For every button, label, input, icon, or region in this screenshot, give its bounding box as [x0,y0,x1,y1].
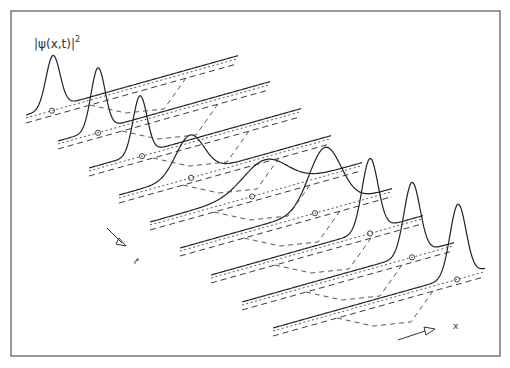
time-slice-0 [26,55,238,123]
time-slice-4 [150,159,362,230]
center-line [242,246,454,305]
time-slices [26,55,485,336]
probability-density-curve [150,159,362,222]
probability-density-curve [26,55,238,115]
figure-frame [11,11,500,356]
expectation-marker-icon [249,194,254,199]
probability-density-curve [273,204,485,328]
center-line [58,85,270,144]
probability-density-curve [58,68,270,141]
probability-density-curve [119,135,331,195]
barrier-outline [244,211,340,246]
probability-density-curve [242,182,454,302]
center-line [26,59,238,118]
expectation-marker-icon [188,175,193,180]
center-line [211,219,423,278]
wave-packet-diagram: |ψ(x,t)|2 t x [0,0,510,368]
dashed-baseline [180,197,392,256]
center-line [89,112,301,171]
dashed-baseline [211,224,423,283]
dashed-baseline [89,117,301,176]
expectation-marker-icon [49,108,54,113]
time-axis: t [107,228,141,266]
dashed-baseline [26,64,238,123]
center-line [150,166,362,225]
time-slice-3 [119,135,331,203]
psi-label: |ψ(x,t)|2 [34,35,80,51]
time-axis-label: t [132,256,142,266]
barrier-outline [214,185,310,220]
dashed-baseline [119,144,331,203]
expectation-marker-icon [454,277,459,282]
x-axis-label: x [453,321,459,331]
center-line [119,139,331,198]
time-slice-7 [242,182,454,310]
dashed-baseline [150,171,362,230]
x-arrow-head-icon [424,327,435,335]
time-slice-8 [273,204,485,336]
x-arrow-shaft [398,331,425,340]
x-axis: x [398,321,459,340]
dashed-baseline [242,251,454,310]
expectation-marker-icon [367,231,372,236]
time-arrow-shaft [107,228,122,243]
